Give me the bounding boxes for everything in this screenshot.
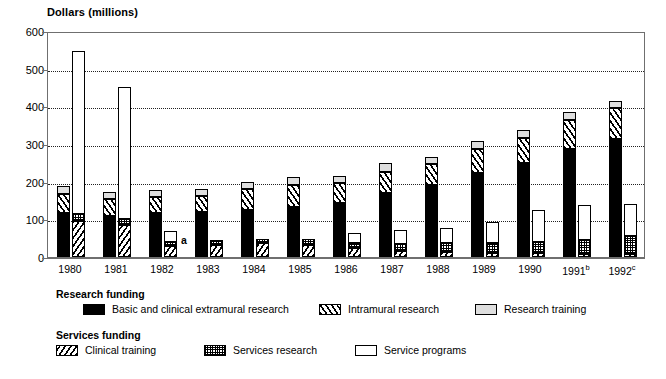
bar-1984-research-funding bbox=[241, 182, 254, 257]
bar-1988-research-funding bbox=[425, 157, 438, 257]
bar-segment-1987-research-training bbox=[379, 163, 392, 171]
legend-group-research: Research funding Basic and clinical extr… bbox=[56, 288, 656, 320]
x-tick-label-1981: 1981 bbox=[93, 263, 139, 275]
bar-segment-1981-basic-and-clinical-extramural-research bbox=[103, 216, 116, 257]
bar-segment-1988-services-research bbox=[440, 243, 453, 252]
bar-segment-1982-intramural-research bbox=[149, 197, 162, 213]
bar-segment-1987-intramural-research bbox=[379, 172, 392, 193]
legend-item-research-training: Research training bbox=[475, 304, 586, 315]
bar-1983-services-funding bbox=[210, 240, 223, 257]
y-tick-label-100: 100 bbox=[4, 215, 44, 225]
bar-segment-1992-service-programs bbox=[624, 204, 637, 236]
x-tick-label-1989: 1989 bbox=[461, 263, 507, 275]
bar-segment-1985-basic-and-clinical-extramural-research bbox=[287, 207, 300, 257]
bar-1990-research-funding bbox=[517, 130, 530, 257]
bar-segment-1983-research-training bbox=[195, 189, 208, 196]
bar-segment-1980-service-programs bbox=[72, 51, 85, 215]
bar-segment-1981-intramural-research bbox=[103, 199, 116, 216]
x-tick-label-1987: 1987 bbox=[369, 263, 415, 275]
bar-segment-1990-basic-and-clinical-extramural-research bbox=[517, 163, 530, 257]
bar-1984-services-funding bbox=[256, 239, 269, 257]
bar-segment-1983-services-research bbox=[210, 240, 223, 244]
bar-1989-services-funding bbox=[486, 222, 499, 257]
bar-1980-research-funding bbox=[57, 186, 70, 257]
bar-segment-1989-services-research bbox=[486, 243, 499, 253]
bar-segment-1991-clinical-training bbox=[578, 254, 591, 257]
bar-segment-1980-research-training bbox=[57, 186, 70, 194]
x-tick-label-1983: 1983 bbox=[185, 263, 231, 275]
bar-segment-1984-intramural-research bbox=[241, 189, 254, 209]
legend-swatch-dot-stipple-icon bbox=[204, 345, 226, 356]
legend-swatch-diagonal-left-hatch-icon bbox=[56, 345, 78, 356]
bar-1987-research-funding bbox=[379, 163, 392, 257]
y-tick-label-500: 500 bbox=[4, 65, 44, 75]
x-tick-label-1991: 1991b bbox=[553, 263, 599, 277]
legend-item-clinical-training: Clinical training bbox=[56, 345, 156, 356]
gridline-100 bbox=[48, 221, 644, 222]
legend-label-research-training: Research training bbox=[504, 304, 586, 315]
bar-segment-1983-intramural-research bbox=[195, 196, 208, 212]
bar-segment-1981-service-programs bbox=[118, 87, 131, 219]
gridline-400 bbox=[48, 108, 644, 109]
legend-item-intramural-research: Intramural research bbox=[319, 304, 439, 315]
bar-segment-1980-basic-and-clinical-extramural-research bbox=[57, 213, 70, 257]
y-tick-label-400: 400 bbox=[4, 102, 44, 112]
bar-1981-services-funding bbox=[118, 87, 131, 257]
legend-swatch-diagonal-right-hatch-icon bbox=[319, 304, 341, 315]
legend-item-service-programs: Service programs bbox=[355, 345, 466, 356]
x-tick-label-1985: 1985 bbox=[277, 263, 323, 275]
bar-segment-1984-research-training bbox=[241, 182, 254, 190]
bar-segment-1981-research-training bbox=[103, 192, 116, 199]
bar-segment-1986-research-training bbox=[333, 176, 346, 183]
bar-1992-research-funding bbox=[609, 101, 622, 257]
bar-segment-1982-service-programs bbox=[164, 231, 177, 243]
legend-group-services: Services funding Clinical training Servi… bbox=[56, 329, 656, 361]
bar-segment-1982-clinical-training bbox=[164, 246, 177, 257]
legend-item-basic-and-clinical-extramural-research: Basic and clinical extramural research bbox=[83, 304, 289, 315]
bar-segment-1989-service-programs bbox=[486, 222, 499, 243]
y-tick-label-200: 200 bbox=[4, 178, 44, 188]
bar-1985-research-funding bbox=[287, 177, 300, 257]
chart-legend: Research funding Basic and clinical extr… bbox=[56, 288, 656, 370]
bar-segment-1991-basic-and-clinical-extramural-research bbox=[563, 149, 576, 257]
bar-segment-1985-research-training bbox=[287, 177, 300, 185]
legend-swatch-white-icon bbox=[355, 345, 377, 356]
bar-segment-1982-basic-and-clinical-extramural-research bbox=[149, 213, 162, 257]
bar-segment-1989-basic-and-clinical-extramural-research bbox=[471, 173, 484, 257]
bar-segment-1982-services-research bbox=[164, 242, 177, 245]
y-tick-label-0: 0 bbox=[4, 253, 44, 263]
x-tick-label-1984: 1984 bbox=[231, 263, 277, 275]
legend-label-service-programs: Service programs bbox=[384, 345, 466, 356]
x-tick-footnote-1992: c bbox=[632, 263, 636, 272]
bar-segment-1988-basic-and-clinical-extramural-research bbox=[425, 185, 438, 257]
bar-segment-1991-research-training bbox=[563, 112, 576, 120]
x-tick-label-1980: 1980 bbox=[47, 263, 93, 275]
bar-1992-services-funding bbox=[624, 204, 637, 257]
x-tick-label-1986: 1986 bbox=[323, 263, 369, 275]
bar-segment-1984-clinical-training bbox=[256, 243, 269, 257]
legend-group-title-research: Research funding bbox=[56, 288, 656, 300]
bar-1980-services-funding bbox=[72, 51, 85, 257]
legend-row-services: Clinical training Services research Serv… bbox=[56, 345, 656, 361]
bar-1991-services-funding bbox=[578, 205, 591, 257]
bar-segment-1991-services-research bbox=[578, 240, 591, 254]
x-tick-label-1988: 1988 bbox=[415, 263, 461, 275]
bar-segment-1992-intramural-research bbox=[609, 108, 622, 139]
bar-segment-1983-basic-and-clinical-extramural-research bbox=[195, 212, 208, 257]
bar-segment-1981-clinical-training bbox=[118, 225, 131, 257]
x-axis-line bbox=[47, 258, 645, 259]
bar-segment-1987-service-programs bbox=[394, 230, 407, 244]
bar-segment-1982-research-training bbox=[149, 190, 162, 197]
bar-segment-1991-intramural-research bbox=[563, 120, 576, 149]
legend-swatch-solid-black-icon bbox=[83, 304, 105, 315]
y-axis-title: Dollars (millions) bbox=[47, 6, 138, 18]
x-tick-footnote-1991: b bbox=[586, 263, 590, 272]
bar-segment-1992-services-research bbox=[624, 236, 637, 254]
legend-group-title-services: Services funding bbox=[56, 329, 656, 341]
bar-segment-1985-intramural-research bbox=[287, 185, 300, 207]
bar-1982-research-funding bbox=[149, 190, 162, 257]
bar-1988-services-funding bbox=[440, 228, 453, 257]
bar-segment-1991-service-programs bbox=[578, 205, 591, 240]
bar-segment-1980-services-research bbox=[72, 214, 85, 221]
x-tick-label-1982: 1982 bbox=[139, 263, 185, 275]
